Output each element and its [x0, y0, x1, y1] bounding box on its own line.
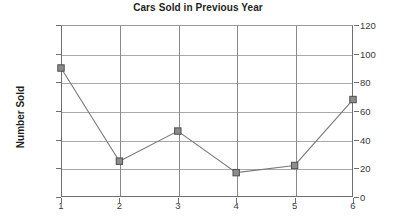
- data-point-marker: [350, 96, 356, 102]
- y-axis-tick-mark-right: [354, 82, 359, 83]
- data-point-marker: [291, 162, 297, 168]
- y-axis-tick-mark-left: [56, 140, 61, 141]
- data-point-marker: [58, 65, 64, 71]
- line-chart: Cars Sold in Previous Year Number Sold 0…: [0, 0, 396, 223]
- data-point-marker: [116, 158, 122, 164]
- y-axis-tick-mark-left: [56, 111, 61, 112]
- x-axis-tick-mark: [119, 198, 120, 203]
- y-axis-tick-mark-left: [56, 54, 61, 55]
- y-axis-tick-mark-right: [354, 168, 359, 169]
- y-axis-tick-label-right: 40: [360, 134, 390, 145]
- y-axis-tick-label-right: 120: [360, 20, 390, 31]
- y-axis-tick-mark-left: [56, 82, 61, 83]
- y-axis-tick-label-right: 20: [360, 163, 390, 174]
- y-axis-tick-label-right: 100: [360, 48, 390, 59]
- y-axis-tick-mark-right: [354, 25, 359, 26]
- y-axis-tick-mark-left: [56, 168, 61, 169]
- x-axis-tick-mark: [178, 198, 179, 203]
- series-line: [61, 68, 353, 173]
- y-axis-tick-label-right: 80: [360, 77, 390, 88]
- y-axis-tick-mark-right: [354, 197, 359, 198]
- y-axis-tick-mark-left: [56, 25, 61, 26]
- y-axis-tick-label-right: 60: [360, 106, 390, 117]
- x-axis-tick-mark: [353, 198, 354, 203]
- y-axis-tick-mark-right: [354, 140, 359, 141]
- x-axis-tick-mark: [236, 198, 237, 203]
- data-point-marker: [175, 128, 181, 134]
- y-axis-tick-mark-right: [354, 54, 359, 55]
- x-axis-tick-mark: [61, 198, 62, 203]
- data-point-marker: [233, 169, 239, 175]
- y-axis-tick-mark-right: [354, 111, 359, 112]
- x-axis-tick-mark: [295, 198, 296, 203]
